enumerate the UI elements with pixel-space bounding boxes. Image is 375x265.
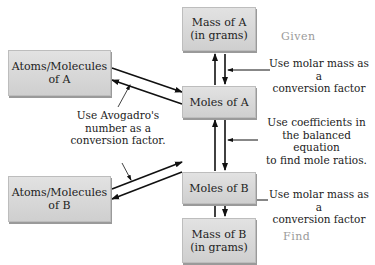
atoms-b-line2: of B [48, 199, 70, 212]
moles-of-b-label: Moles of B [189, 182, 248, 195]
moles-of-a-box: Moles of A [182, 86, 256, 118]
atoms-molecules-b-box: Atoms/Molecules of B [8, 176, 111, 222]
moles-of-b-box: Moles of B [182, 172, 256, 204]
given-tag: Given [281, 30, 316, 43]
atoms-molecules-a-box: Atoms/Molecules of A [8, 50, 111, 96]
mass-of-a-line2: (in grams) [190, 29, 248, 42]
avogadro-annotation: Use Avogadro's number as a conversion fa… [68, 109, 168, 147]
mass-of-b-line2: (in grams) [190, 241, 248, 254]
coefficients-annotation: Use coefficients in the balanced equatio… [258, 116, 375, 166]
moles-of-a-label: Moles of A [189, 96, 248, 109]
mass-of-b-line1: Mass of B [192, 228, 247, 241]
molar-mass-annotation-top: Use molar mass as a conversion factor [266, 57, 372, 95]
mass-of-b-box: Mass of B (in grams) [182, 218, 256, 263]
mass-of-a-line1: Mass of A [192, 16, 247, 29]
molar-mass-annotation-bottom: Use molar mass as a conversion factor [266, 188, 372, 226]
atoms-a-line2: of A [48, 73, 70, 86]
atoms-b-line1: Atoms/Molecules [12, 186, 107, 199]
mass-of-a-box: Mass of A (in grams) [182, 7, 256, 51]
atoms-a-line1: Atoms/Molecules [12, 60, 107, 73]
find-tag: Find [283, 230, 310, 243]
